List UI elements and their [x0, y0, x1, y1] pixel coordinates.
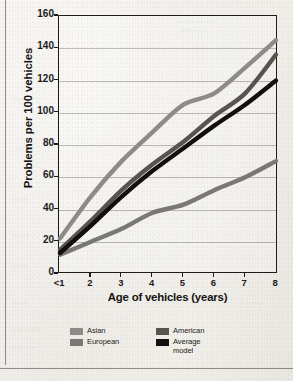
- y-tick-label: 140: [26, 40, 54, 51]
- x-tick-label: 3: [118, 277, 123, 288]
- y-tick-label: 100: [26, 105, 54, 116]
- y-tick-label: 20: [26, 234, 54, 245]
- plot-area: [58, 15, 277, 273]
- series-lines: [59, 16, 278, 274]
- line-chart: Problems per 100 vehicles 02040608010012…: [0, 0, 293, 381]
- y-tick-label: 0: [26, 266, 54, 277]
- legend-swatch-icon: [70, 328, 83, 335]
- legend-swatch-icon: [156, 328, 169, 335]
- legend-item-label: Asian: [87, 327, 106, 335]
- x-tick-mark: [151, 273, 152, 277]
- x-tick-mark: [120, 273, 121, 277]
- x-tick-label: 8: [272, 277, 277, 288]
- x-tick-label: 6: [211, 277, 216, 288]
- x-tick-mark: [89, 273, 90, 277]
- x-tick-label: <1: [54, 277, 64, 288]
- series-line-american: [60, 55, 276, 250]
- legend-item-label: American: [173, 327, 204, 335]
- chart-legend: AsianAmericanEuropeanAveragemodel: [70, 327, 250, 355]
- y-tick-label: 60: [26, 169, 54, 180]
- x-tick-label: 7: [242, 277, 247, 288]
- x-tick-mark: [244, 273, 245, 277]
- x-tick-mark: [182, 273, 183, 277]
- series-line-average-model: [60, 81, 276, 254]
- legend-swatch-icon: [156, 339, 169, 346]
- x-tick-label: 5: [180, 277, 185, 288]
- legend-item-average-model[interactable]: Averagemodel: [156, 338, 244, 355]
- legend-item-european[interactable]: European: [70, 338, 148, 355]
- x-axis-title: Age of vehicles (years): [58, 291, 277, 303]
- series-line-european: [60, 161, 276, 255]
- x-tick-label: 4: [149, 277, 154, 288]
- legend-swatch-icon: [70, 339, 83, 346]
- legend-item-label: European: [87, 338, 119, 346]
- y-tick-label: 160: [26, 8, 54, 19]
- y-tick-label: 40: [26, 202, 54, 213]
- legend-item-label: Averagemodel: [173, 338, 200, 355]
- legend-item-american[interactable]: American: [156, 327, 244, 335]
- legend-item-asian[interactable]: Asian: [70, 327, 148, 335]
- x-tick-label: 2: [87, 277, 92, 288]
- x-tick-mark: [213, 273, 214, 277]
- y-tick-label: 80: [26, 137, 54, 148]
- y-tick-label: 120: [26, 73, 54, 84]
